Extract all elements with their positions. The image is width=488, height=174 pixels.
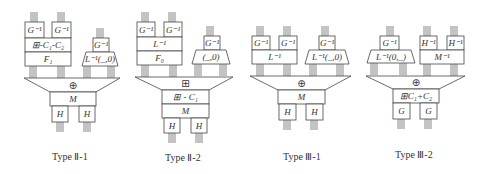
g-inverse-label: G⁻¹: [94, 40, 108, 50]
g-label: G: [398, 106, 405, 116]
h-label: H: [283, 107, 291, 117]
diagram-type-ii-1: G⁻¹ G⁻¹ ⊞-C₁-C₂ F₁ G⁻¹ L⁻¹(_,0) ⊕ M H H: [24, 12, 120, 132]
l-inverse-label: L⁻¹(_,0): [311, 52, 342, 62]
g-inverse-label: G⁻¹: [205, 38, 219, 48]
g-inverse-label: G⁻¹: [320, 38, 334, 48]
m-label: M: [181, 106, 190, 116]
sum-minus-c1-label: ⊞ - C₁: [173, 92, 198, 102]
h-inverse-label: H⁻¹: [447, 38, 462, 48]
caption-type-ii-1: Type Ⅱ-1: [52, 151, 88, 162]
g-inverse-label: G⁻¹: [382, 38, 396, 48]
diagram-type-ii-2: G⁻¹ G⁻¹ L⁻¹ F₀ G⁻¹ (_,0) ⊞ ⊞ - C₁ M H H: [135, 12, 233, 143]
h-label: H: [195, 121, 203, 131]
sum-c1-plus-c2-label: ⊞C₁+C₂: [400, 91, 432, 101]
f1-label: F₁: [43, 54, 53, 64]
l-inverse-label: L⁻¹(_,0): [84, 54, 115, 64]
box-sum-icon: ⊞: [181, 78, 189, 89]
caption-type-iii-2: Type Ⅲ-2: [395, 149, 433, 160]
g-inverse-label: G⁻¹: [281, 38, 295, 48]
caption-type-iii-1: Type Ⅲ-1: [283, 151, 321, 162]
direct-sum-icon: ⊕: [69, 80, 77, 91]
g-inverse-label: G⁻¹: [254, 38, 268, 48]
g-label: G: [425, 106, 432, 116]
sum-c1-c2-label: ⊞-C₁-C₂: [32, 40, 64, 50]
h-label: H: [56, 109, 64, 119]
h-label: H: [310, 107, 318, 117]
g-inverse-label: G⁻¹: [139, 25, 153, 35]
m-label: M: [68, 94, 77, 104]
h-label: H: [83, 109, 91, 119]
h-label: H: [168, 121, 176, 131]
g-inverse-label: G⁻¹: [54, 25, 68, 35]
partial-label: (_,0): [202, 52, 219, 62]
g-inverse-label: G⁻¹: [27, 25, 41, 35]
diagram-canvas: G⁻¹ G⁻¹ ⊞-C₁-C₂ F₁ G⁻¹ L⁻¹(_,0) ⊕ M H H …: [0, 0, 488, 174]
m-inverse-label: M⁻¹: [433, 52, 449, 62]
l-inverse-label: L⁻¹: [267, 52, 281, 62]
m-label: M: [297, 92, 306, 102]
caption-type-ii-2: Type Ⅱ-2: [165, 152, 201, 163]
g-inverse-label: G⁻¹: [166, 25, 180, 35]
direct-sum-icon: ⊕: [297, 78, 305, 89]
l-inverse-label: L⁻¹: [152, 39, 166, 49]
direct-sum-icon: ⊕: [412, 77, 420, 88]
l-inverse-label: L⁻¹(0,_): [375, 52, 406, 62]
h-inverse-label: H⁻¹: [420, 38, 435, 48]
diagram-type-iii-1: G⁻¹ G⁻¹ L⁻¹ G⁻¹ L⁻¹(_,0) ⊕ M H H: [250, 26, 351, 130]
f0-label: F₀: [154, 53, 164, 63]
diagram-type-iii-2: G⁻¹ L⁻¹(0,_) H⁻¹ H⁻¹ M⁻¹ ⊕ ⊞C₁+C₂ G G: [366, 26, 465, 129]
